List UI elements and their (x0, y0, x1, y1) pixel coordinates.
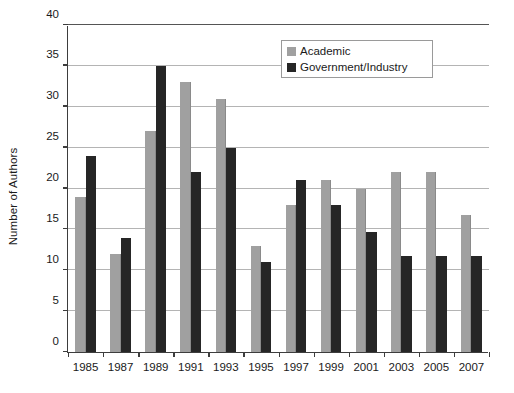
bar-government-industry-2003 (401, 256, 411, 352)
y-tick-label-15: 15 (46, 212, 59, 224)
bar-group-1991 (173, 25, 208, 352)
y-tick-label-30: 30 (46, 89, 59, 101)
bar-academic-2003 (391, 172, 401, 352)
y-tick-label-20: 20 (46, 171, 59, 183)
x-tick-mark-1991 (208, 352, 209, 357)
bar-group-1993 (208, 25, 243, 352)
x-tick-mark-2005 (454, 352, 455, 357)
x-tick-label-1999: 1999 (318, 361, 344, 373)
bar-government-industry-1999 (331, 205, 341, 352)
y-tick-label-35: 35 (46, 48, 59, 60)
x-tick-mark-1993 (243, 352, 244, 357)
x-tick-label-1997: 1997 (283, 361, 309, 373)
bar-group-1985 (68, 25, 103, 352)
x-tick-label-2007: 2007 (459, 361, 485, 373)
x-tick-mark-2003 (419, 352, 420, 357)
x-tick-mark-2001 (384, 352, 385, 357)
x-tick-label-1993: 1993 (213, 361, 239, 373)
bar-academic-1999 (321, 180, 331, 352)
bar-government-industry-1991 (191, 172, 201, 352)
bar-government-industry-2005 (436, 256, 446, 352)
bar-academic-1997 (286, 205, 296, 352)
bar-academic-1989 (145, 131, 155, 352)
bar-academic-2001 (356, 189, 366, 353)
x-tick-label-1995: 1995 (248, 361, 274, 373)
x-tick-label-1987: 1987 (108, 361, 134, 373)
bar-government-industry-1987 (121, 238, 131, 352)
bar-group-1987 (103, 25, 138, 352)
bar-academic-1993 (216, 99, 226, 352)
bar-government-industry-1997 (296, 180, 306, 352)
bar-group-2007 (454, 25, 489, 352)
y-axis-title: Number of Authors (0, 0, 26, 393)
x-tick-mark-origin (68, 352, 69, 357)
x-tick-label-1991: 1991 (178, 361, 204, 373)
legend-swatch-academic (287, 47, 296, 56)
bar-academic-2005 (426, 172, 436, 352)
x-tick-mark-2007 (489, 352, 490, 357)
y-tick-label-5: 5 (53, 294, 59, 306)
bar-government-industry-2007 (471, 256, 481, 352)
chart-legend: Academic Government/Industry (281, 40, 433, 78)
x-tick-mark-1999 (349, 352, 350, 357)
x-tick-mark-1989 (173, 352, 174, 357)
bar-group-1995 (243, 25, 278, 352)
x-tick-mark-1987 (138, 352, 139, 357)
legend-item-government-industry: Government/Industry (287, 59, 428, 75)
x-tick-mark-1985 (103, 352, 104, 357)
bar-academic-1995 (251, 246, 261, 352)
bar-academic-1987 (110, 254, 120, 352)
bar-academic-1991 (180, 82, 190, 352)
legend-label-academic: Academic (300, 45, 351, 57)
bar-government-industry-1989 (156, 66, 166, 352)
x-tick-mark-1997 (314, 352, 315, 357)
x-tick-label-1989: 1989 (143, 361, 169, 373)
x-tick-label-2001: 2001 (353, 361, 379, 373)
bar-government-industry-1993 (226, 148, 236, 352)
y-tick-label-10: 10 (46, 253, 59, 265)
bar-government-industry-1995 (261, 262, 271, 352)
y-tick-label-40: 40 (46, 8, 59, 20)
bar-government-industry-1985 (86, 156, 96, 352)
legend-item-academic: Academic (287, 43, 428, 59)
x-tick-label-2003: 2003 (388, 361, 414, 373)
legend-label-government-industry: Government/Industry (300, 61, 407, 73)
x-tick-label-2005: 2005 (424, 361, 450, 373)
bar-chart-figure: Number of Authors 0510152025303540 19851… (0, 0, 514, 393)
x-tick-label-1985: 1985 (73, 361, 99, 373)
bar-academic-2007 (461, 215, 471, 352)
legend-swatch-government-industry (287, 63, 296, 72)
bar-group-1989 (138, 25, 173, 352)
bar-government-industry-2001 (366, 232, 376, 352)
y-tick-label-0: 0 (53, 335, 59, 347)
x-tick-mark-1995 (279, 352, 280, 357)
y-tick-label-25: 25 (46, 130, 59, 142)
bar-academic-1985 (75, 197, 85, 352)
